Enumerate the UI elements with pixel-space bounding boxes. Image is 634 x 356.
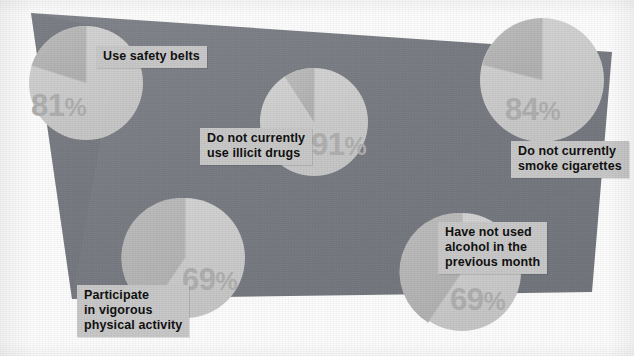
label-safety-belts: Use safety belts	[96, 46, 207, 68]
percent-symbol: %	[215, 267, 237, 295]
percent-number: 69	[450, 282, 483, 317]
percent-symbol: %	[538, 97, 560, 125]
label-cigarettes: Do not currently smoke cigarettes	[511, 141, 629, 178]
percent-number: 84	[505, 92, 538, 127]
percent-value-cigarettes: 84%	[505, 92, 560, 128]
percent-symbol: %	[344, 132, 366, 160]
percent-number: 91	[311, 127, 344, 162]
percent-value-alcohol: 69%	[450, 282, 505, 318]
percent-value-safety-belts: 81%	[31, 88, 86, 124]
label-physical-activity: Participate in vigorous physical activit…	[77, 285, 189, 337]
percent-number: 81	[31, 88, 64, 123]
percent-symbol: %	[483, 287, 505, 315]
infographic-canvas: 81% 91% 84% 69% 69% Use safety belts Do …	[0, 0, 634, 356]
label-illicit-drugs: Do not currently use illicit drugs	[200, 128, 312, 165]
percent-value-illicit-drugs: 91%	[311, 127, 366, 163]
label-alcohol: Have not used alcohol in the previous mo…	[438, 222, 547, 274]
percent-value-physical-activity: 69%	[182, 262, 237, 298]
percent-symbol: %	[64, 93, 86, 121]
